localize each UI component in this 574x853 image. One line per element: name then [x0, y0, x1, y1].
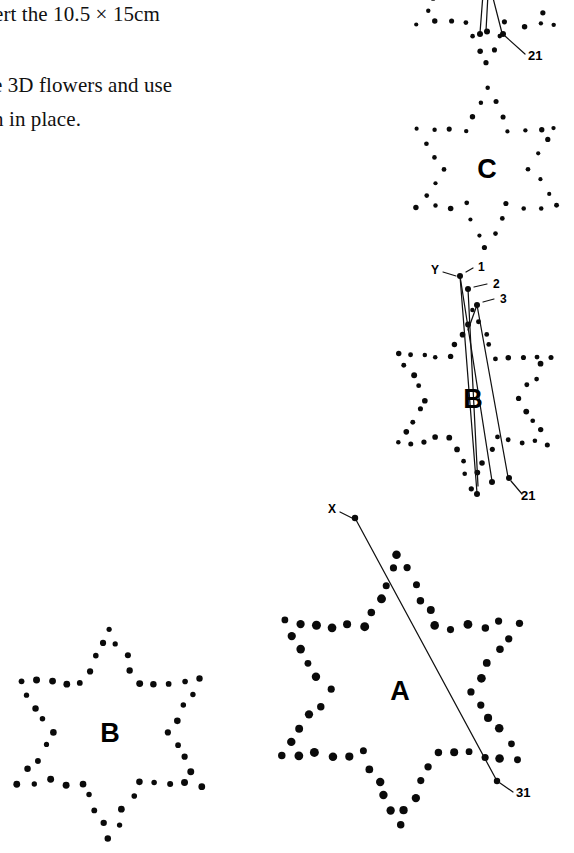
fold-line-a-1 — [355, 518, 497, 781]
dotted-star-outlines — [13, 0, 559, 842]
pattern-dot — [396, 351, 401, 356]
pattern-dot — [484, 714, 492, 722]
pattern-dot — [464, 200, 469, 205]
pattern-dot — [40, 716, 46, 722]
fold-endpoint-dot — [477, 31, 483, 37]
pattern-dot — [288, 632, 296, 640]
pattern-dot — [432, 155, 437, 160]
pattern-dot — [494, 99, 499, 104]
pattern-dot — [533, 439, 538, 444]
pattern-dot — [187, 768, 194, 775]
pattern-dot — [464, 620, 473, 629]
pattern-dot — [376, 778, 384, 786]
pattern-dot — [80, 781, 87, 788]
pattern-dot — [181, 779, 188, 786]
fold-anchor-dot-x — [352, 515, 358, 521]
pattern-dot — [296, 645, 305, 654]
pattern-dot — [483, 60, 488, 65]
callout-x: X — [328, 502, 336, 516]
pattern-dot — [526, 167, 531, 172]
pattern-dot — [424, 141, 429, 146]
pattern-dot — [495, 724, 504, 733]
pattern-dot — [47, 776, 54, 783]
pattern-dot — [281, 617, 288, 624]
pattern-dot — [167, 781, 173, 787]
pattern-dot — [165, 729, 171, 735]
callout-2: 2 — [493, 277, 500, 291]
pattern-dot — [470, 114, 475, 119]
pattern-dot — [379, 791, 387, 799]
pattern-dot — [466, 748, 473, 755]
pattern-dot — [430, 0, 435, 1]
pattern-dot — [496, 646, 504, 654]
pattern-dot — [539, 21, 543, 25]
pattern-dot — [554, 203, 559, 208]
pattern-dot — [408, 442, 413, 447]
pattern-dot — [470, 308, 474, 312]
pattern-dot — [392, 550, 401, 559]
pattern-dot — [435, 749, 442, 756]
leader-x — [340, 512, 352, 518]
pattern-dot — [295, 725, 303, 733]
pattern-dot — [198, 783, 205, 790]
pattern-dot — [524, 382, 529, 387]
pattern-dot — [449, 18, 454, 23]
pattern-dot — [294, 751, 303, 760]
pattern-dot — [182, 679, 188, 685]
pattern-dot — [126, 667, 132, 673]
pattern-dot — [468, 217, 472, 221]
pattern-dot — [432, 127, 436, 131]
pattern-dot — [345, 753, 353, 761]
pattern-dot — [506, 437, 511, 442]
fold-line-top-1 — [480, 0, 483, 33]
leader-3 — [483, 299, 494, 302]
pattern-dot — [329, 753, 338, 762]
pattern-dot — [506, 355, 512, 361]
pattern-dot — [477, 701, 484, 708]
pattern-dot — [503, 201, 508, 206]
pattern-dot — [545, 137, 550, 142]
pattern-dot — [495, 435, 500, 440]
pattern-dot — [424, 763, 431, 770]
pattern-dot — [538, 177, 542, 181]
pattern-dot — [505, 635, 512, 642]
pattern-dot — [538, 361, 544, 367]
pattern-dot — [196, 675, 202, 681]
leader-2 — [474, 284, 487, 287]
fold-endpoint-dot — [489, 479, 495, 485]
pattern-dot — [540, 10, 545, 15]
shape-letter-a: A — [390, 676, 410, 706]
pattern-dot — [427, 606, 435, 614]
pattern-dot — [32, 705, 38, 711]
shape-letter-b: B — [463, 384, 483, 414]
pattern-dot — [182, 754, 188, 760]
pattern-dot — [469, 486, 474, 491]
pattern-dot — [414, 22, 418, 26]
pattern-dot — [523, 128, 527, 132]
pattern-dot — [492, 47, 497, 52]
pattern-dot — [77, 680, 83, 686]
fold-anchor-dot-y — [457, 273, 463, 279]
pattern-dot — [502, 19, 507, 24]
pattern-dot — [93, 653, 99, 659]
dot-pattern-diagram: CBAB 21Y12321X31 — [0, 0, 574, 853]
pattern-dot — [477, 674, 486, 683]
pattern-dot — [317, 703, 324, 710]
pattern-dot — [399, 806, 407, 814]
shape-letter-b: B — [100, 718, 120, 748]
pattern-dot — [547, 192, 551, 196]
pattern-dot — [467, 688, 474, 695]
pattern-dot — [413, 205, 418, 210]
pattern-dot — [44, 742, 49, 747]
pattern-dot — [539, 127, 544, 132]
pattern-dot — [412, 794, 420, 802]
pattern-dot — [296, 620, 304, 628]
pattern-dot — [174, 717, 181, 724]
pattern-dot — [312, 673, 320, 681]
pattern-dot — [521, 355, 526, 360]
pattern-dot — [482, 245, 487, 250]
pattern-dot — [490, 447, 495, 452]
pattern-dot — [482, 624, 489, 631]
pattern-dot — [368, 609, 376, 617]
pattern-dot — [411, 372, 417, 378]
